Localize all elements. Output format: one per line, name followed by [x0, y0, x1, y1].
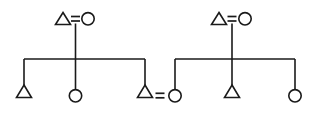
female-circle-f2-child-1	[169, 90, 181, 102]
female-circle-f2-mother	[239, 13, 251, 25]
female-circle-f1-mother	[82, 13, 94, 25]
female-circle-f2-child-3	[289, 90, 301, 102]
diagram-background	[0, 0, 315, 114]
kinship-diagram	[0, 0, 315, 114]
female-circle-f1-child-2	[69, 90, 81, 102]
kinship-diagram-canvas	[0, 0, 315, 114]
